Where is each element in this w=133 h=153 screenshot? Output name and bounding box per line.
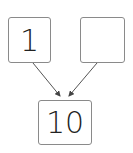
whole-box: 10 bbox=[38, 100, 92, 145]
part-box-left: 1 bbox=[8, 17, 51, 63]
arrow-left-to-whole bbox=[33, 63, 60, 96]
whole-value: 10 bbox=[46, 105, 84, 140]
part-left-value: 1 bbox=[20, 23, 39, 58]
arrow-right-to-whole bbox=[69, 63, 97, 96]
part-box-right-empty[interactable] bbox=[80, 17, 125, 63]
